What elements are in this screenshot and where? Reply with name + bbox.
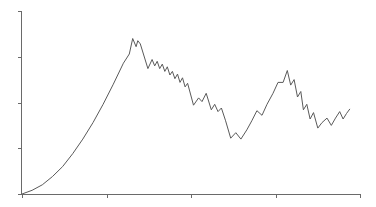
- data-series-line: [22, 39, 350, 195]
- y-axis-ticks: [18, 12, 22, 195]
- y-axis: [18, 11, 22, 195]
- x-axis-ticks: [23, 195, 361, 199]
- x-axis: [22, 195, 361, 199]
- line-chart: [0, 0, 376, 207]
